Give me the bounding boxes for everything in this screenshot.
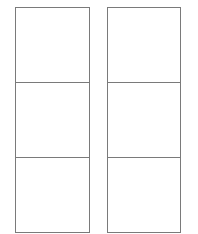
left-panel-2 [16, 83, 89, 158]
right-panel-3 [108, 158, 180, 232]
left-panel-3 [16, 158, 89, 232]
right-panel-1 [108, 8, 180, 83]
left-column [15, 7, 90, 233]
right-column [107, 7, 181, 233]
right-panel-2 [108, 83, 180, 158]
left-panel-1 [16, 8, 89, 83]
